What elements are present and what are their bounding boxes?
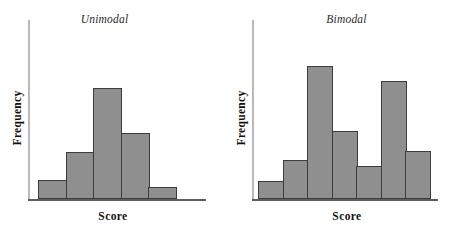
x-axis-line-unimodal — [28, 199, 206, 201]
bar — [405, 151, 431, 199]
bar — [121, 133, 150, 199]
plot-area-unimodal — [38, 19, 181, 199]
plot-area-bimodal — [258, 19, 433, 199]
y-axis-line-unimodal — [28, 20, 30, 200]
x-axis-title-bimodal: Score — [307, 210, 387, 222]
bar-series-unimodal — [38, 19, 176, 199]
y-axis-title-bimodal: Frequency — [235, 83, 247, 153]
y-axis-line-bimodal — [252, 20, 254, 200]
bar — [93, 88, 122, 199]
bar — [283, 160, 309, 199]
bar — [66, 152, 95, 199]
x-axis-line-bimodal — [252, 199, 438, 201]
bar — [381, 81, 407, 199]
x-axis-title-unimodal: Score — [73, 210, 153, 222]
bar — [307, 66, 333, 199]
bar-series-bimodal — [258, 19, 430, 199]
bar — [258, 181, 284, 199]
bar — [38, 180, 67, 199]
bar — [148, 187, 177, 199]
bar — [332, 131, 358, 199]
bar — [356, 166, 382, 199]
panel-bimodal: Bimodal Frequency Score — [229, 0, 458, 243]
histogram-comparison-figure: Unimodal Frequency Score Bimodal Frequen… — [0, 0, 458, 243]
y-axis-title-unimodal: Frequency — [11, 83, 23, 153]
panel-unimodal: Unimodal Frequency Score — [0, 0, 229, 243]
